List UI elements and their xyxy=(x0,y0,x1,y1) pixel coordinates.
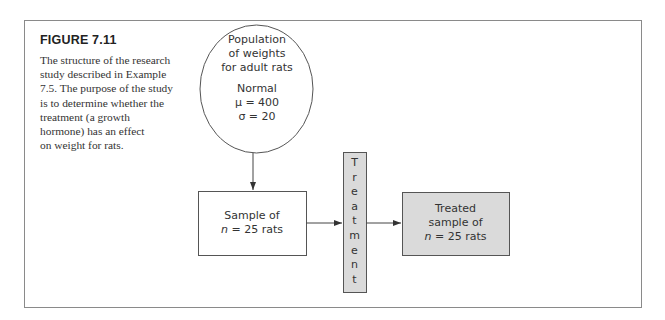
population-text: Population of weights for adult rats Nor… xyxy=(200,33,314,124)
n-variable: n xyxy=(221,223,228,236)
treatment-letter: r xyxy=(343,171,366,186)
diagram-shapes xyxy=(0,0,665,320)
treatment-letter: t xyxy=(343,273,366,288)
treated-sample-text: Treated sample of n = 25 rats xyxy=(402,202,509,244)
treatment-letter: t xyxy=(343,214,366,229)
treatment-label: T r e a t m e n t xyxy=(343,156,366,287)
population-line: of weights xyxy=(200,47,314,61)
treatment-letter: e xyxy=(343,185,366,200)
sigma-value: σ = 20 xyxy=(200,110,314,124)
n-value: = 25 rats xyxy=(228,223,283,236)
mu-value: μ = 400 xyxy=(200,96,314,110)
treated-line: sample of xyxy=(402,216,509,230)
distribution-label: Normal xyxy=(200,82,314,96)
treatment-letter: m xyxy=(343,229,366,244)
treated-size: n = 25 rats xyxy=(402,230,509,244)
sample-line: Sample of xyxy=(198,209,306,223)
sample-size: n = 25 rats xyxy=(198,223,306,237)
population-line: Population xyxy=(200,33,314,47)
treatment-letter: a xyxy=(343,200,366,215)
treatment-letter: e xyxy=(343,244,366,259)
treatment-letter: T xyxy=(343,156,366,171)
treated-line: Treated xyxy=(402,202,509,216)
treatment-letter: n xyxy=(343,258,366,273)
sample-text: Sample of n = 25 rats xyxy=(198,209,306,237)
population-line: for adult rats xyxy=(200,61,314,75)
n-value: = 25 rats xyxy=(431,230,486,243)
